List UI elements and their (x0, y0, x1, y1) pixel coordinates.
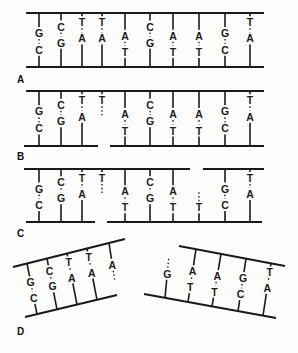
base-letter: G (163, 268, 171, 280)
dna-figure-canvas: GCCGTATAATCGATATGCTA GCCGTATATCGATATGCTA… (0, 0, 298, 353)
panel-label-a: A (17, 74, 24, 85)
left-fragment-bottom-strand (25, 295, 117, 317)
backbone-rung (27, 264, 30, 277)
base-letter: T (79, 16, 86, 28)
base-letter: A (263, 282, 271, 294)
base-letter: G (35, 183, 43, 195)
base-letter: T (196, 201, 203, 213)
hydrogen-bond-broken (113, 271, 114, 280)
base-letter: C (57, 99, 65, 111)
base-letter: C (35, 122, 43, 134)
base-letter: A (213, 270, 221, 282)
base-letter: T (170, 46, 177, 58)
backbone-rung (212, 298, 214, 307)
base-letter: G (146, 192, 154, 204)
base-letter: A (78, 32, 86, 44)
base-letter: A (78, 111, 86, 123)
panel-label-d: D (17, 326, 24, 337)
base-letter: T (65, 256, 72, 268)
base-letter: C (46, 265, 54, 277)
base-letter: A (189, 265, 197, 277)
base-letter: C (35, 199, 43, 211)
base-letter: A (121, 185, 129, 197)
backbone-rung (238, 300, 240, 311)
backbone-rung (263, 294, 266, 316)
base-letter: T (85, 251, 92, 263)
base-letter: A (169, 108, 177, 120)
dna-diagram: GCCGTATAATCGATATGCTA GCCGTATATCGATATGCTA… (0, 0, 298, 353)
base-letter: A (246, 111, 254, 123)
base-letter: C (57, 21, 65, 33)
base-letter: C (30, 292, 38, 304)
base-letter: A (121, 108, 129, 120)
backbone-rung (54, 292, 57, 309)
base-letter: A (98, 32, 106, 44)
base-letter: T (99, 94, 106, 106)
base-letter: T (170, 125, 177, 137)
base-letter: T (122, 125, 129, 137)
base-letter: C (57, 176, 65, 188)
backbone-rung (93, 278, 97, 299)
base-letter: G (35, 27, 43, 39)
base-letter: A (246, 32, 254, 44)
backbone-rung (218, 254, 221, 270)
base-letter: T (99, 16, 106, 28)
base-letter: C (221, 122, 229, 134)
base-letter: A (246, 188, 254, 200)
base-letter: A (121, 30, 129, 42)
base-letter: C (35, 44, 43, 56)
base-letter: T (247, 172, 254, 184)
base-letter: G (146, 37, 154, 49)
base-letter: G (57, 37, 65, 49)
base-letter: G (57, 115, 65, 127)
backbone-rung (194, 249, 196, 265)
right-fragment-bottom-strand (144, 294, 276, 318)
base-letter: G (48, 280, 56, 292)
base-letter: T (122, 46, 129, 58)
base-letter: G (146, 115, 154, 127)
base-letter: T (79, 94, 86, 106)
base-letter: G (27, 276, 35, 288)
base-letter: C (221, 199, 229, 211)
panel-c: GCCGTATATCGATTGCTA (24, 169, 264, 222)
base-letter: T (247, 16, 254, 28)
panel-a: GCCGTATAATCGATATGCTA (26, 13, 264, 67)
backbone-rung (73, 283, 77, 304)
base-letter: A (169, 30, 177, 42)
base-letter: T (187, 281, 194, 293)
base-letter: A (78, 188, 86, 200)
panel-d: GCCGTATAAGATATGCTA (13, 239, 285, 318)
base-letter: G (221, 105, 229, 117)
base-letter: T (170, 201, 177, 213)
backbone-rung (109, 243, 111, 259)
base-letter: T (247, 94, 254, 106)
base-letter: T (122, 201, 129, 213)
base-letter: T (266, 266, 273, 278)
base-letter: A (109, 259, 117, 271)
backbone-rung (188, 293, 189, 302)
base-letter: A (195, 30, 203, 42)
base-letter: T (196, 46, 203, 58)
panel-label-c: C (17, 228, 24, 239)
base-letter: G (57, 192, 65, 204)
base-letter: C (221, 44, 229, 56)
panel-b: GCCGTATATCGATATGCTA (24, 91, 264, 146)
base-letter: C (146, 99, 154, 111)
base-letter: T (196, 125, 203, 137)
backbone-rung (35, 304, 37, 314)
backbone-rung (165, 280, 167, 298)
backbone-rung (244, 259, 246, 272)
base-letter: C (237, 288, 245, 300)
base-letter: A (169, 185, 177, 197)
base-letter: G (35, 105, 43, 117)
base-letter: G (221, 183, 229, 195)
base-letter: A (88, 267, 96, 279)
base-letter: T (211, 286, 218, 298)
base-letter: A (68, 272, 76, 284)
panel-label-b: B (17, 151, 24, 162)
base-letter: T (79, 172, 86, 184)
base-letter: A (195, 108, 203, 120)
base-letter: C (146, 21, 154, 33)
base-letter: T (99, 172, 106, 184)
base-letter: C (146, 176, 154, 188)
